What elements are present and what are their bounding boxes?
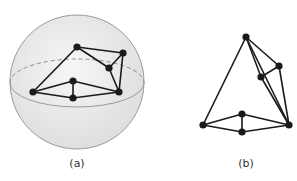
node-center-bottom <box>69 94 76 101</box>
edge-center-bottom-right <box>242 125 289 132</box>
node-left <box>29 88 36 95</box>
figure-canvas <box>0 0 297 181</box>
node-top <box>73 43 80 50</box>
node-upper-right <box>275 62 282 69</box>
panel-a-label: (a) <box>69 157 84 170</box>
node-left <box>199 121 206 128</box>
node-right <box>285 121 292 128</box>
node-mid-right <box>105 64 112 71</box>
edge-center-top-right <box>242 114 289 125</box>
node-center-bottom <box>238 128 245 135</box>
node-top-right <box>119 49 126 56</box>
node-top <box>242 33 249 40</box>
node-right <box>115 88 122 95</box>
panel-b-planar-graph <box>199 33 292 135</box>
panel-a-sphere-graph <box>10 15 144 149</box>
node-mid <box>257 73 264 80</box>
node-center-top <box>69 77 76 84</box>
edge-left-center-top <box>203 114 242 125</box>
edge-left-center-bottom <box>203 125 242 132</box>
node-center-top <box>238 110 245 117</box>
edge-top-right <box>246 37 289 125</box>
panel-b-label: (b) <box>238 157 254 170</box>
